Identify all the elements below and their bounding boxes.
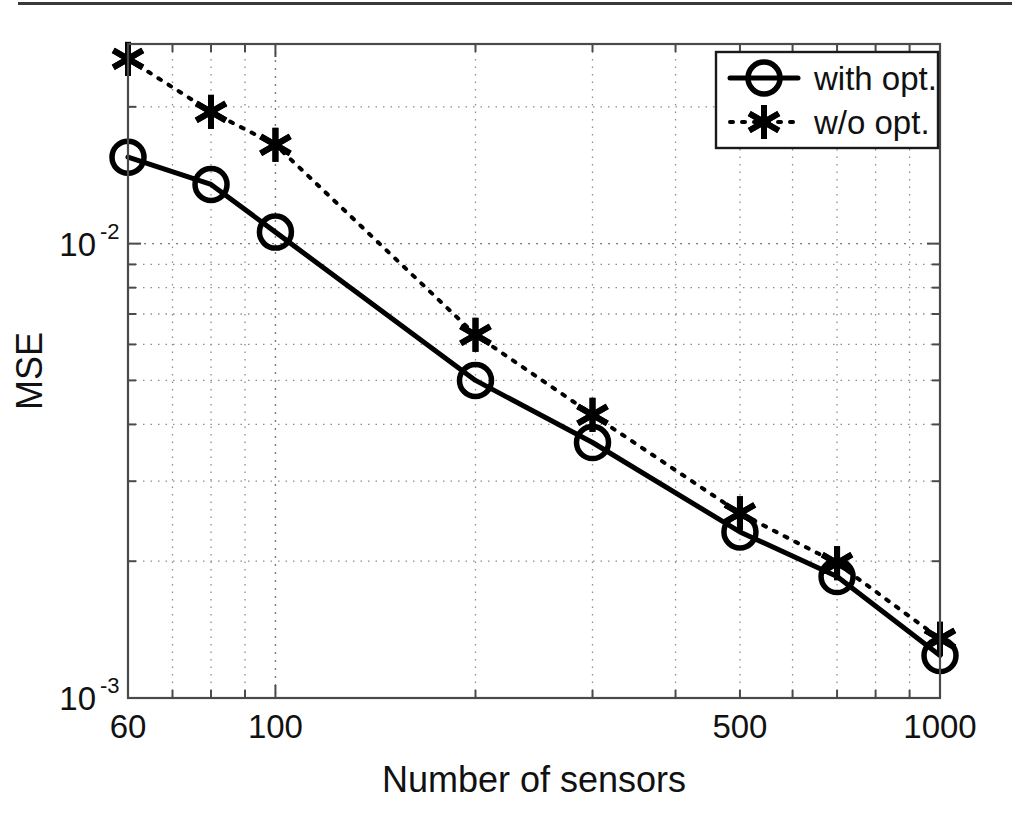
- x-tick-label: 1000: [903, 708, 976, 745]
- y-tick-exponent: -2: [100, 219, 120, 244]
- series-markers-1: [112, 141, 956, 671]
- x-tick-label: 500: [712, 708, 767, 745]
- y-tick-base: 10: [59, 226, 96, 263]
- axis-labels-layer: 60100500100010-210-3Number of sensorsMSE: [9, 219, 977, 800]
- y-axis-title: MSE: [9, 332, 50, 410]
- y-tick-label-upper: 10-2: [59, 219, 119, 263]
- x-axis-title: Number of sensors: [382, 759, 686, 800]
- mse-vs-sensors-chart: 60100500100010-210-3Number of sensorsMSE…: [0, 0, 1023, 819]
- legend[interactable]: with opt.w/o opt.: [716, 52, 938, 148]
- legend-label-1: with opt.: [813, 60, 937, 97]
- y-tick-base: 10: [59, 680, 96, 717]
- y-tick-exponent: -3: [100, 673, 120, 698]
- x-tick-label: 100: [248, 708, 303, 745]
- series-line-1: [128, 157, 940, 655]
- legend-label-2: w/o opt.: [813, 104, 930, 141]
- x-tick-label: 60: [110, 708, 147, 745]
- figure-container: 60100500100010-210-3Number of sensorsMSE…: [0, 0, 1023, 819]
